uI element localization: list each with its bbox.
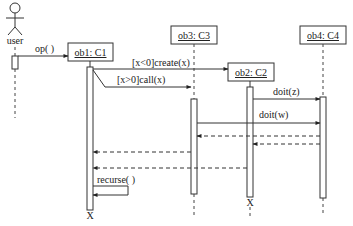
object-ob1: ob1: C1 X — [68, 43, 113, 221]
ob1-destroy-marker: X — [86, 210, 94, 221]
actor-user: user — [6, 3, 24, 118]
ob4-label: ob4: C4 — [307, 30, 339, 41]
message-call-label: [x>0]call(x) — [117, 74, 165, 86]
message-recurse: recurse( ) — [93, 174, 135, 195]
message-doit-z-label: doit(z) — [273, 86, 300, 98]
ob4-activation — [320, 97, 326, 198]
ob1-label: ob1: C1 — [75, 47, 107, 58]
object-ob3: ob3: C3 — [171, 26, 217, 216]
object-ob4: ob4: C4 — [300, 26, 346, 216]
ob1-activation — [87, 67, 93, 210]
message-recurse-arrow — [93, 186, 128, 195]
ob2-activation — [247, 87, 253, 197]
message-create-label: [x<0]create(x) — [132, 57, 190, 69]
actor-right-leg — [15, 27, 22, 35]
ob2-label: ob2: C2 — [235, 67, 267, 78]
ob2-destroy-marker: X — [246, 197, 254, 208]
actor-left-leg — [8, 27, 15, 35]
message-op-label: op( ) — [35, 43, 54, 55]
message-doit-z: doit(z) — [253, 86, 320, 99]
message-doit-w: doit(w) — [197, 109, 320, 123]
message-call: [x>0]call(x) — [93, 70, 191, 87]
ob3-label: ob3: C3 — [178, 30, 210, 41]
actor-label: user — [7, 35, 24, 46]
message-recurse-label: recurse( ) — [97, 174, 135, 186]
ob3-activation — [191, 99, 197, 194]
diagram-canvas: user ob1: C1 X ob3: C3 ob2: C2 X ob4: C4 — [0, 0, 353, 226]
object-ob2: ob2: C2 X — [228, 63, 274, 219]
message-doit-w-label: doit(w) — [259, 109, 288, 121]
user-activation — [12, 56, 18, 69]
sequence-diagram: user ob1: C1 X ob3: C3 ob2: C2 X ob4: C4 — [0, 0, 353, 226]
actor-head-icon — [10, 3, 20, 13]
message-op: op( ) — [18, 43, 68, 56]
